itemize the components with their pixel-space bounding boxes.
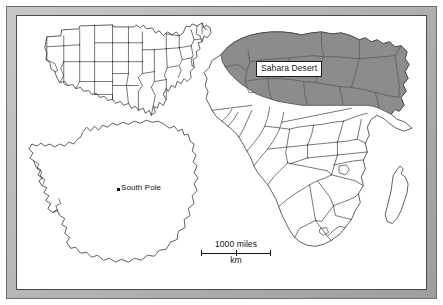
map-panel-united-states: [45, 23, 211, 115]
scale-bar-tick-left: [201, 250, 202, 256]
scale-bar-km-label: km: [201, 256, 271, 265]
scale-bar-tick-right: [270, 250, 271, 256]
scale-bar-miles-label: 1000 miles: [201, 240, 271, 249]
map-figure: Sahara Desert South Pole 1000 miles km: [0, 0, 443, 305]
scale-bar-rule: [201, 250, 271, 256]
map-panel-antarctica: [29, 120, 198, 262]
south-pole-label: South Pole: [121, 183, 161, 192]
map-plot-area: Sahara Desert South Pole 1000 miles km: [16, 15, 427, 290]
sahara-desert-label: Sahara Desert: [256, 61, 322, 77]
scale-bar-tick-middle: [236, 250, 237, 256]
scale-bar: 1000 miles km: [201, 240, 271, 265]
south-pole-marker: [117, 188, 120, 191]
